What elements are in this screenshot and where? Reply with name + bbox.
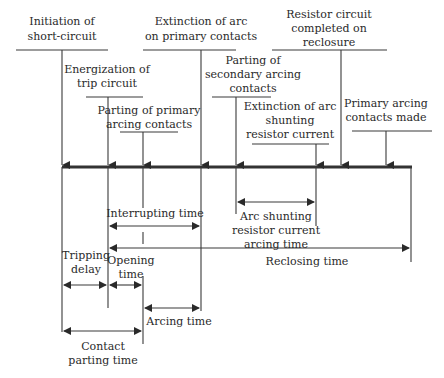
interval-arcing-time: Arcing time (145, 308, 212, 328)
event-label-line: trip circuit (77, 77, 137, 90)
interval-interrupting-time: Interrupting time (106, 207, 203, 226)
interval-contact-parting-time: Contact parting time (64, 331, 141, 367)
interval-label-line: Reclosing time (266, 255, 349, 268)
interval-opening-time: Opening time (107, 254, 154, 285)
event-primary-arcing-contacts-made: Primary arcing contacts made (344, 97, 432, 165)
event-label-line: contacts made (345, 111, 426, 124)
event-label-line: short-circuit (28, 30, 97, 43)
event-label-line: shunting (266, 114, 315, 127)
event-label-line: resistor current (246, 128, 335, 141)
event-label-line: secondary arcing (205, 68, 301, 81)
interval-label-line: Interrupting time (106, 207, 203, 220)
event-label-line: Initiation of (29, 15, 95, 28)
interval-label-line: time (119, 268, 144, 281)
event-label-line: Extinction of arc (244, 100, 337, 113)
event-label-line: on primary contacts (145, 30, 257, 43)
event-label-line: completed on (291, 22, 366, 35)
interval-label-line: delay (71, 263, 102, 276)
interval-label-line: Arc shunting (239, 210, 312, 223)
event-label-line: Resistor circuit (286, 8, 372, 21)
event-label-line: Parting of (226, 54, 282, 67)
interval-label-line: Tripping (62, 249, 110, 262)
event-label-line: Parting of primary (98, 104, 202, 117)
event-label-line: arcing contacts (106, 118, 193, 131)
event-extinction-arc-shunting: Extinction of arc shunting resistor curr… (244, 100, 337, 226)
interval-reclosing-time: Reclosing time (110, 248, 409, 268)
event-label-line: Primary arcing (344, 97, 428, 110)
interval-label-line: parting time (68, 354, 137, 367)
event-label-line: Energization of (64, 63, 151, 76)
interval-tripping-delay: Tripping delay (62, 249, 110, 285)
event-label-line: reclosure (303, 36, 356, 49)
event-label-line: Extinction of arc (155, 15, 248, 28)
breaker-timing-diagram: Initiation of short-circuit Energization… (0, 0, 444, 378)
event-label-line: contacts (229, 82, 276, 95)
event-resistor-circuit-reclosure: Resistor circuit completed on reclosure (272, 8, 387, 165)
interval-label-line: arcing time (244, 238, 308, 251)
interval-arc-shunting-arcing-time: Arc shunting resistor current arcing tim… (232, 202, 321, 251)
interval-label-line: Contact (81, 340, 125, 353)
interval-label-line: Opening (107, 254, 154, 267)
interval-label-line: Arcing time (145, 315, 211, 328)
interval-label-line: resistor current (232, 224, 321, 237)
